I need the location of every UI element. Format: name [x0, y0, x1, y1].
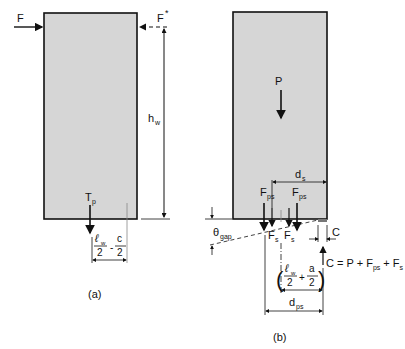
dim2-num-a: a [309, 263, 315, 274]
theta-label: θ [213, 226, 219, 238]
dim2-num-lw: ℓ [284, 262, 289, 274]
dim-num-lw-sub: w [100, 240, 106, 246]
dim2-den-2: 2 [287, 277, 293, 288]
fps-sub-left: ps [267, 193, 275, 201]
height-label: h [148, 112, 154, 124]
fs-label-left: F [268, 229, 275, 241]
tendon-sub: p [92, 198, 96, 206]
toe-block [318, 219, 327, 222]
fs-label-right: F [284, 229, 291, 241]
dim2-den-2b: 2 [309, 277, 315, 288]
force-label-right: F [157, 12, 164, 24]
dim-den-2: 2 [97, 247, 103, 258]
compression-equation: C = P + Fps + Fs [326, 257, 404, 272]
rocking-wall-diagram: F F * h w T p ℓ w 2 - c 2 (a) P [0, 0, 405, 349]
dps-label: d [289, 296, 295, 308]
figure-a: F F * h w T p ℓ w 2 - c 2 (a) [14, 8, 170, 300]
dim2-num-lw-sub: w [290, 270, 296, 276]
dim-num-c: c [117, 233, 122, 244]
dim-minus: - [110, 242, 113, 253]
paren-left: ( [276, 267, 284, 292]
figure-b: P d s F ps F ps θ gap F s F s C [205, 12, 404, 343]
force-label-right-sup: * [165, 8, 169, 18]
fps-sub-right: ps [299, 193, 307, 201]
fps-label-right: F [292, 186, 299, 198]
wall-a [44, 13, 137, 219]
tendon-label: T [85, 191, 92, 203]
theta-sub: gap [220, 233, 232, 241]
dim2-plus: + [299, 272, 305, 283]
fps-label-left: F [260, 186, 267, 198]
height-sub: w [154, 119, 161, 126]
force-label-left: F [17, 12, 24, 24]
caption-a: (a) [88, 288, 101, 300]
caption-b: (b) [273, 331, 286, 343]
ds-sub: s [302, 175, 306, 182]
dim-num-lw: ℓ [94, 232, 99, 244]
ds-label: d [295, 168, 301, 180]
fs-sub-left: s [275, 236, 279, 243]
dps-sub: ps [296, 303, 304, 311]
paren-right: ) [318, 267, 325, 292]
fs-sub-right: s [291, 236, 295, 243]
dim-den-2b: 2 [117, 247, 123, 258]
c-label: C [332, 226, 340, 238]
axial-label: P [275, 75, 282, 87]
wall-b [233, 12, 327, 219]
